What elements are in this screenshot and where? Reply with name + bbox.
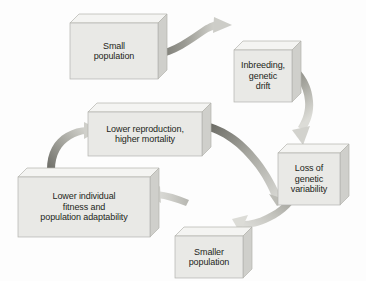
node-loss-of-genetic-variability: Loss of genetic variability [278, 144, 349, 205]
node-small-population: Small population [70, 14, 167, 79]
node-label: Lower reproduction, higher mortality [88, 112, 202, 156]
arrow-lower-reproduction-to-loss-of-variability [199, 121, 287, 206]
node-lower-individual-fitness: Lower individual fitness and population … [18, 168, 159, 237]
node-inbreeding-genetic-drift: Inbreeding, genetic drift [234, 41, 301, 102]
node-label: Loss of genetic variability [278, 153, 340, 205]
node-label: Small population [70, 23, 158, 79]
node-label: Lower individual fitness and population … [18, 177, 150, 237]
node-label: Inbreeding, genetic drift [234, 50, 292, 102]
extinction-vortex-diagram: Small population Inbreeding, genetic dri… [0, 0, 366, 281]
node-lower-reproduction-higher-mortality: Lower reproduction, higher mortality [88, 103, 211, 156]
node-smaller-population: Smaller population [175, 227, 252, 278]
arrow-small-population-to-inbreeding [156, 17, 232, 58]
node-label: Smaller population [175, 236, 243, 278]
